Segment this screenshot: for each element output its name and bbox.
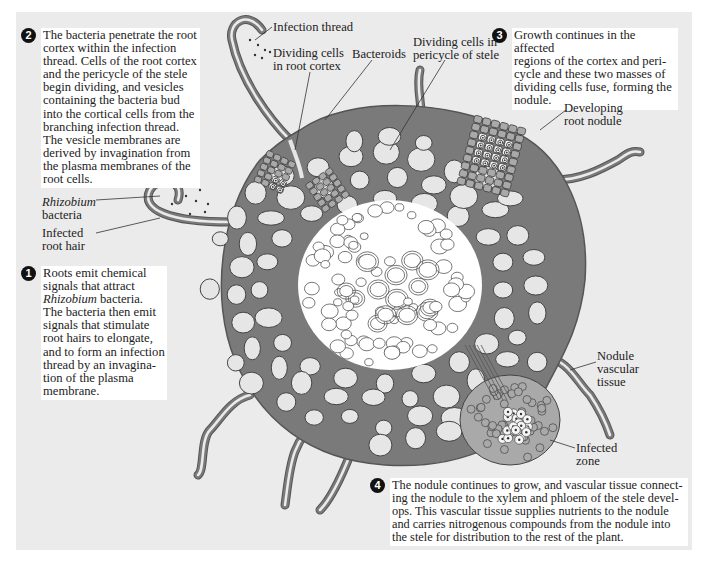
callout-line: tion of the plasma [43,372,165,385]
rhizobium-bacterium [264,49,266,51]
stele-cell [444,283,460,297]
stele-cell [321,261,330,269]
stele-cell [440,229,452,239]
cortex-cell [496,352,520,367]
cortex-cell [271,356,287,379]
step-2-number-badge: 2 [21,28,36,43]
rhizobium-bacterium [257,44,259,46]
cortex-cell [257,254,278,270]
cortex-cell [341,409,358,423]
label-developing-nodule: Developing root nodule [564,102,623,128]
cortex-cell [258,211,285,225]
bacteroid [520,413,522,415]
rhizobium-bacterium [199,189,201,191]
bacteroid [515,429,517,431]
nodule-cell [536,444,544,452]
stele-cell [349,241,358,249]
cortex-cell [406,428,426,449]
step-1-callout: 1 Roots emit chemicalsignals that attrac… [41,266,167,400]
stele-cell [447,323,458,332]
cortex-cell [529,302,546,324]
callout-line: root cells. [43,173,198,186]
cortex-cell [272,230,292,247]
stele-cell [305,282,320,295]
dividing-cell [491,120,501,129]
stele-cell [314,249,330,263]
cortex-cell [251,282,268,299]
dividing-cell [485,176,495,185]
cortex-cell [507,226,529,246]
cortex-cell [524,276,548,295]
nodule-cell [524,453,532,461]
rhizobium-bacterium [261,57,263,59]
nodule-cell [538,404,546,412]
dividing-cell [500,188,510,197]
leader-line [96,218,160,233]
cortex-cell [227,285,246,305]
callout-line: root hairs to elongate, [43,332,165,345]
cortex-cell [334,368,358,388]
rhizobium-bacterium [254,54,256,56]
dividing-cell [517,127,527,136]
callout-line: membrane. [43,385,165,398]
nodule-cell [467,405,475,413]
dividing-cell [461,161,471,170]
stele-cell [338,251,352,262]
stele-cell [373,338,385,348]
stele-cell [404,254,420,268]
cortex-cell [493,282,512,298]
stele-cell [388,292,406,307]
cortex-cell [476,229,500,246]
cortex-cell [230,257,254,278]
stele-cell [303,298,315,309]
cortex-cell [433,385,460,408]
callout-line: into the cortical cells from the [43,108,198,121]
nodule-cell [489,422,497,430]
bacteroid [507,411,509,413]
cortex-cell [324,388,348,404]
cortex-cell [436,421,462,441]
cortex-cell [493,253,513,271]
dividing-cell [496,171,506,180]
stele-cell [428,345,438,353]
callout-line: branching infection thread. [43,121,198,134]
step-4-callout: 4 The nodule continues to grow, and vasc… [390,478,688,546]
dividing-cell [476,174,486,183]
label-infected-zone: Infected zone [576,442,617,468]
rhizobium-bacterium [249,39,251,41]
dividing-cell [508,158,518,167]
step-3-callout: 3 Growth continues in the affectedregion… [512,28,678,110]
nodule-cell [549,424,557,432]
dividing-cell [457,177,467,186]
dividing-cell [487,168,497,177]
nodule-cell [477,403,485,411]
nodule-cell [482,395,490,403]
step-2-text: The bacteria penetrate the rootcortex wi… [43,29,198,186]
label-nodule-vascular-tissue: Nodule vascular tissue [597,350,639,390]
cortex-cell [305,410,323,425]
infection-thread-hair-outline [231,20,290,140]
stele-cell [441,239,454,250]
stele-cell [359,338,375,351]
bacteroid [525,431,527,433]
cortex-cell [301,206,323,222]
cortex-cell [450,185,478,209]
cortex-cell [200,279,219,299]
leader-line [570,362,596,370]
stele-cell [356,278,366,287]
dividing-cell [469,130,479,139]
dividing-cell [497,130,507,139]
stele-cell [371,267,382,276]
stele-cell [387,268,404,283]
stele-cell [341,330,351,339]
cortex-cell [527,352,547,371]
stele-cell [370,282,387,296]
bacteroid [520,425,522,427]
cortex-cell [277,393,296,412]
callout-line: and to form an infection [43,346,165,359]
dividing-cell [506,132,516,141]
rhizobium-bacterium [195,200,197,202]
stele-cell [321,304,338,318]
rhizobium-bacterium [185,195,187,197]
cortex-cell [212,232,228,246]
